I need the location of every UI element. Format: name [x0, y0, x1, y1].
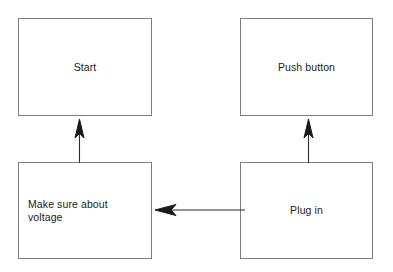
flowchart-canvas: Start Push button Make sure about voltag… — [0, 0, 393, 272]
flowchart-arrow-voltage-to-start — [68, 118, 92, 164]
flowchart-node-plug-in[interactable]: Plug in — [240, 162, 373, 259]
flowchart-node-make-sure-about-voltage[interactable]: Make sure about voltage — [18, 162, 152, 259]
flowchart-node-label: Make sure about voltage — [19, 198, 108, 224]
flowchart-node-label: Plug in — [290, 204, 323, 217]
flowchart-arrow-plug-in-to-push-button — [297, 118, 321, 164]
flowchart-node-label: Push button — [278, 61, 335, 74]
flowchart-node-start[interactable]: Start — [18, 18, 152, 116]
flowchart-arrow-plug-in-to-voltage — [152, 198, 246, 222]
flowchart-node-push-button[interactable]: Push button — [240, 18, 373, 116]
flowchart-node-label: Start — [74, 61, 97, 74]
